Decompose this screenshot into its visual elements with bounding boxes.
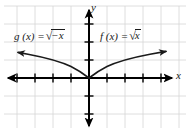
coordinate-plane <box>0 0 188 132</box>
y-axis-label: y <box>91 2 96 13</box>
x-axis-label: x <box>176 70 181 81</box>
radicand-g: −x <box>51 29 64 41</box>
radicand-f: x <box>135 29 141 41</box>
function-label-g: g (x) =√−x <box>14 30 65 42</box>
function-label-f: f (x) =√x <box>100 30 141 42</box>
y-axis <box>85 10 94 126</box>
radical-g: √−x <box>45 30 65 42</box>
grid-lines <box>4 6 186 128</box>
radical-f: √x <box>128 30 140 42</box>
graph-figure: g (x) =√−x f (x) =√x x y <box>0 0 188 132</box>
function-label-f-prefix: f (x) = <box>100 30 128 42</box>
function-label-g-prefix: g (x) = <box>14 30 45 42</box>
curve-f-sqrt-x <box>89 51 166 78</box>
